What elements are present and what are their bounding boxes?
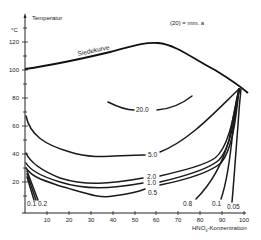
curve-01-right-label: 0.1 [212, 200, 221, 207]
vapor-pressure-chart: 120 100 80 60 40 20 10 20 30 40 50 60 70… [0, 0, 261, 240]
curve-02-left-label: 0.2 [38, 200, 47, 207]
svg-text:20: 20 [12, 179, 19, 185]
curve-5-label: 5.0 [148, 151, 157, 158]
curve-08-label: 0.8 [183, 200, 192, 207]
svg-text:40: 40 [12, 151, 19, 157]
x-tick-labels: 10 20 30 40 50 60 70 80 90 100 [44, 217, 250, 223]
svg-text:50: 50 [132, 217, 139, 223]
curve-005-label: 0.05 [227, 203, 240, 210]
svg-text:20: 20 [66, 217, 73, 223]
svg-text:120: 120 [9, 39, 20, 45]
svg-text:100: 100 [239, 217, 250, 223]
svg-text:80: 80 [197, 217, 204, 223]
y-tick-labels: 120 100 80 60 40 20 [9, 39, 20, 185]
annotation-label: (20) = mm. a [170, 20, 205, 26]
boiling-curve [25, 43, 248, 93]
curve-5 [26, 89, 239, 157]
curve-2 [26, 89, 239, 183]
svg-text:60: 60 [12, 123, 19, 129]
curve-015-left [27, 174, 36, 200]
y-axis-arrow-icon [24, 13, 27, 18]
curve-1 [26, 89, 239, 188]
y-axis-unit: °C [11, 27, 18, 33]
svg-text:60: 60 [153, 217, 160, 223]
curve-20-label: 20.0 [136, 106, 149, 113]
curve-1-label: 1.0 [147, 179, 156, 186]
curve-08 [196, 89, 239, 199]
curve-20 [108, 96, 192, 110]
y-axis-label: Temperatur [32, 15, 62, 21]
curve-05-label: 0.5 [148, 189, 157, 196]
x-axis-label: HNO3-Konzentration [192, 225, 247, 233]
curve-01-left-label: 0.1 [27, 200, 36, 207]
svg-text:40: 40 [110, 217, 117, 223]
svg-text:80: 80 [12, 95, 19, 101]
svg-text:100: 100 [9, 67, 20, 73]
svg-text:70: 70 [175, 217, 182, 223]
svg-text:90: 90 [219, 217, 226, 223]
svg-text:30: 30 [88, 217, 95, 223]
svg-text:10: 10 [44, 217, 51, 223]
